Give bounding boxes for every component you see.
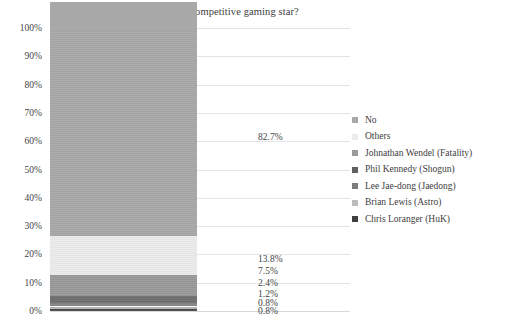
legend-item[interactable]: Johnathan Wendel (Fatality) [352,145,514,162]
legend-item[interactable]: Phil Kennedy (Shogun) [352,162,514,179]
legend-swatch-icon [352,117,358,123]
legend-label: Lee Jae-dong (Jaedong) [365,182,456,192]
bar-segment[interactable] [50,236,197,275]
legend-item[interactable]: Chris Loranger (HuK) [352,211,514,228]
plot-area [50,28,350,311]
legend-swatch-icon [352,167,358,173]
legend-item[interactable]: No [352,112,514,129]
y-tick-label: 90% [25,51,42,61]
bar-segment[interactable] [50,309,197,311]
legend-label: Others [365,132,390,142]
legend-swatch-icon [352,183,358,189]
legend-label: Chris Loranger (HuK) [365,215,450,225]
legend-item[interactable]: Others [352,129,514,146]
legend-item[interactable]: Lee Jae-dong (Jaedong) [352,178,514,195]
y-tick-label: 50% [25,165,42,175]
gridline [50,311,350,312]
bar-segment[interactable] [50,2,197,236]
legend-swatch-icon [352,200,358,206]
legend-label: Phil Kennedy (Shogun) [365,165,455,175]
legend-swatch-icon [352,216,358,222]
y-tick-label: 40% [25,193,42,203]
chart-container: Do you know any competitive gaming star?… [0,0,516,331]
y-tick-label: 10% [25,278,42,288]
bar-segment[interactable] [50,296,197,303]
y-tick-label: 70% [25,108,42,118]
y-tick-label: 100% [20,23,42,33]
y-tick-label: 0% [29,306,42,316]
legend-label: Brian Lewis (Astro) [365,198,442,208]
legend-item[interactable]: Brian Lewis (Astro) [352,195,514,212]
y-tick-label: 30% [25,221,42,231]
stacked-bar[interactable] [50,28,197,311]
y-tick-label: 80% [25,80,42,90]
legend-label: No [365,116,377,126]
legend: NoOthersJohnathan Wendel (Fatality)Phil … [352,112,514,228]
y-tick-label: 20% [25,249,42,259]
legend-label: Johnathan Wendel (Fatality) [365,149,472,159]
y-tick-label: 60% [25,136,42,146]
bar-segment[interactable] [50,275,197,296]
legend-swatch-icon [352,134,358,140]
bar-segment[interactable] [50,307,197,309]
y-axis: 0%10%20%30%40%50%60%70%80%90%100% [0,28,46,311]
bar-segment[interactable] [50,303,197,306]
legend-swatch-icon [352,150,358,156]
